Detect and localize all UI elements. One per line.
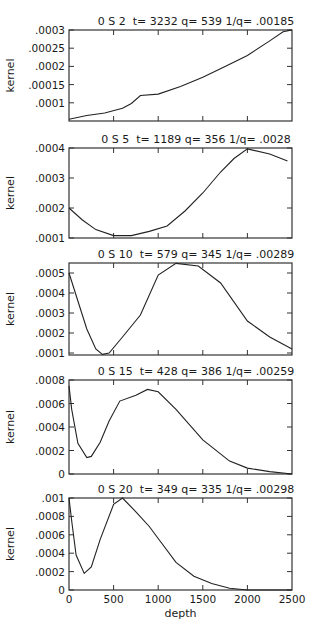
x-tick-label: 1500 — [189, 593, 216, 605]
plot-frame — [69, 498, 292, 590]
y-tick-label: .0005 — [35, 267, 65, 279]
kernel-curve — [69, 263, 292, 354]
y-tick-label: .0002 — [35, 566, 65, 578]
plot-frame — [69, 263, 292, 355]
panel-5: 0 S 20 t= 349 q= 335 1/q= .002980.0002.0… — [4, 483, 305, 620]
plot-frame — [69, 30, 292, 121]
plot-frame — [69, 380, 292, 474]
panel-2: 0 S 5 t= 1189 q= 356 1/q= .0028.0001.000… — [4, 133, 292, 244]
x-tick-label: 500 — [104, 593, 124, 605]
y-axis-title: kernel — [4, 410, 17, 444]
y-tick-label: .0008 — [35, 374, 65, 386]
kernel-curve — [69, 498, 292, 590]
y-tick-label: .001 — [42, 492, 65, 504]
y-tick-label: .0001 — [35, 347, 65, 359]
y-axis-title: kernel — [4, 527, 17, 561]
x-tick-label: 0 — [66, 593, 73, 605]
panel-title: 0 S 10 t= 579 q= 345 1/q= .00289 — [98, 248, 295, 261]
y-tick-label: .0004 — [35, 421, 65, 433]
plot-frame — [69, 148, 292, 238]
y-tick-label: .0002 — [35, 60, 65, 72]
y-tick-label: .0006 — [35, 398, 65, 410]
y-tick-label: .0003 — [35, 172, 65, 184]
panel-title: 0 S 5 t= 1189 q= 356 1/q= .0028 — [101, 133, 291, 146]
x-tick-label: 1000 — [145, 593, 172, 605]
y-tick-label: .0002 — [35, 202, 65, 214]
y-tick-label: .00015 — [28, 79, 65, 91]
x-tick-label: 2500 — [279, 593, 306, 605]
panel-title: 0 S 2 t= 3232 q= 539 1/q= .00185 — [98, 15, 295, 28]
y-axis-title: kernel — [4, 59, 17, 93]
y-tick-label: .00025 — [28, 42, 65, 54]
x-axis-title: depth — [164, 607, 196, 620]
kernel-curve — [69, 30, 292, 119]
y-tick-label: .0002 — [35, 327, 65, 339]
panel-1: 0 S 2 t= 3232 q= 539 1/q= .00185.0001.00… — [4, 15, 294, 121]
y-tick-label: .0006 — [35, 529, 65, 541]
panel-3: 0 S 10 t= 579 q= 345 1/q= .00289.0001.00… — [4, 248, 294, 359]
y-tick-label: .0001 — [35, 97, 65, 109]
y-tick-label: 0 — [58, 584, 65, 596]
y-axis-title: kernel — [4, 176, 17, 210]
y-tick-label: .0004 — [35, 547, 65, 559]
panel-4: 0 S 15 t= 428 q= 386 1/q= .002590.0002.0… — [4, 365, 294, 480]
y-axis-title: kernel — [4, 292, 17, 326]
y-tick-label: 0 — [58, 468, 65, 480]
y-tick-label: .0002 — [35, 445, 65, 457]
panel-title: 0 S 15 t= 428 q= 386 1/q= .00259 — [98, 365, 295, 378]
y-tick-label: .0004 — [35, 287, 65, 299]
y-tick-label: .0003 — [35, 24, 65, 36]
x-tick-label: 2000 — [234, 593, 261, 605]
y-tick-label: .0004 — [35, 142, 65, 154]
kernel-curve — [69, 149, 288, 236]
panel-title: 0 S 20 t= 349 q= 335 1/q= .00298 — [98, 483, 295, 496]
y-tick-label: .0001 — [35, 232, 65, 244]
y-tick-label: .0003 — [35, 307, 65, 319]
kernel-figure: 0 S 2 t= 3232 q= 539 1/q= .00185.0001.00… — [0, 0, 312, 627]
y-tick-label: .0008 — [35, 510, 65, 522]
kernel-curve — [69, 386, 292, 474]
